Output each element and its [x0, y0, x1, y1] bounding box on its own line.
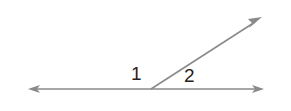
diagonal-ray-shaft — [151, 22, 255, 89]
horizontal-line — [28, 85, 264, 93]
diagram-canvas — [0, 0, 291, 111]
diagonal-ray — [151, 17, 262, 89]
angle-label-2: 2 — [184, 66, 195, 85]
angle-diagram: 1 2 — [0, 0, 291, 111]
angle-label-1: 1 — [131, 64, 142, 83]
diagonal-arrowhead-icon — [248, 17, 262, 28]
